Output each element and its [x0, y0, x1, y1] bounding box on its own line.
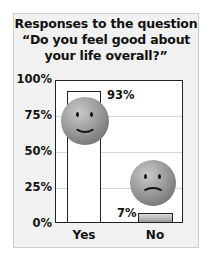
- value-label-yes: 93%: [107, 88, 135, 102]
- ytick-0: 0%: [10, 216, 52, 230]
- left-eye: [144, 174, 147, 179]
- chart-title: Responses to the question “Do you feel g…: [13, 16, 199, 64]
- bar-no: [138, 213, 173, 223]
- ytick-100: 100%: [10, 72, 52, 86]
- right-eye: [158, 174, 161, 179]
- value-label-no: 7%: [117, 206, 137, 220]
- ytick-75: 75%: [10, 108, 52, 122]
- smiley-face-icon: [61, 97, 109, 145]
- smile: [73, 115, 97, 133]
- title-line-1: Responses to the question: [13, 16, 199, 32]
- xlabel-yes: Yes: [64, 228, 104, 242]
- frowny-face-icon: [130, 160, 176, 206]
- xlabel-no: No: [135, 228, 175, 242]
- title-line-3: your life overall?”: [13, 48, 199, 64]
- title-line-2: “Do you feel good about: [13, 32, 199, 48]
- frown: [141, 187, 165, 203]
- ytick-25: 25%: [10, 180, 52, 194]
- ytick-50: 50%: [10, 144, 52, 158]
